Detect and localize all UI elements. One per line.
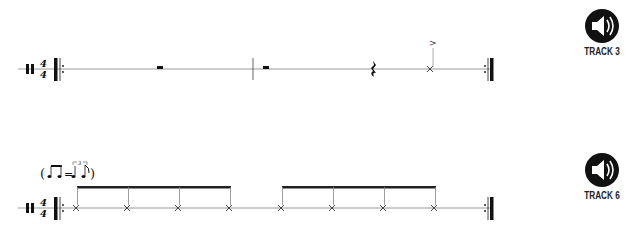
notation-page: 4 4 > <box>0 0 628 228</box>
half-rest <box>263 66 269 69</box>
staff-system-track3: 4 4 > <box>18 38 494 81</box>
time-signature: 4 4 <box>40 197 47 219</box>
swing-marking: ( = 3 ) <box>40 160 95 181</box>
svg-text:4: 4 <box>40 197 47 208</box>
svg-text:=: = <box>64 168 73 181</box>
svg-text:4: 4 <box>40 58 47 69</box>
beamed-eighth-group <box>278 186 437 211</box>
track-6-audio-link[interactable]: TRACK 6 <box>572 152 628 201</box>
speaker-icon <box>584 152 620 188</box>
svg-text:4: 4 <box>40 208 47 219</box>
notation-canvas: 4 4 > <box>0 0 628 228</box>
beamed-eighth-group <box>73 186 232 211</box>
time-signature: 4 4 <box>40 58 47 80</box>
track-label: TRACK 3 <box>577 46 626 57</box>
svg-text:4: 4 <box>40 69 47 80</box>
svg-text:(: ( <box>40 166 45 181</box>
svg-text:3: 3 <box>78 160 81 166</box>
speaker-icon <box>584 8 620 44</box>
accented-cymbal-note: > <box>427 38 437 72</box>
track-label: TRACK 6 <box>577 190 626 201</box>
accent-mark: > <box>429 38 437 48</box>
svg-text:): ) <box>90 166 95 181</box>
staff-system-track6: ( = 3 ) 4 4 <box>18 160 494 220</box>
half-rest <box>157 66 163 69</box>
track-3-audio-link[interactable]: TRACK 3 <box>572 8 628 57</box>
